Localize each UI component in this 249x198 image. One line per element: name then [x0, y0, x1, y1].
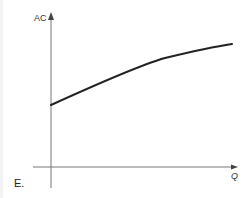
chart-canvas [0, 0, 249, 198]
x-axis-label: Q [231, 171, 238, 181]
y-axis-label: AC [34, 13, 47, 23]
y-axis-arrow-icon [48, 12, 54, 20]
ac-curve [51, 44, 232, 105]
x-axis-arrow-icon [231, 165, 238, 170]
panel-label: E. [14, 177, 24, 189]
